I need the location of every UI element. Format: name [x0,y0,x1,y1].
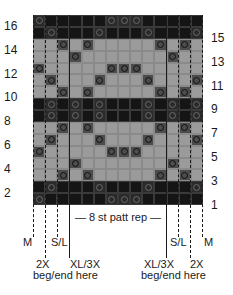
chart-cell-marked [33,15,45,27]
chart-cell-marked [130,193,142,205]
chart-cell [106,98,118,110]
chart-cell [82,193,94,205]
chart-cell [167,122,179,134]
chart-cell [33,27,45,39]
chart-cell-marked [118,146,130,158]
chart-cell [33,74,45,86]
chart-cell [154,146,166,158]
chart-cell [154,110,166,122]
size-line-right-m [202,15,203,237]
chart-cell [82,51,94,63]
chart-cell [118,51,130,63]
chart-cell [57,134,69,146]
chart-cell-marked [142,181,154,193]
chart-cell-marked [142,110,154,122]
chart-cell [142,169,154,181]
row-number-2: 2 [4,187,26,199]
chart-cell [69,193,81,205]
chart-cell [167,15,179,27]
chart-cell-marked [106,146,118,158]
chart-cell [57,110,69,122]
chart-cell [69,27,81,39]
chart-cell [118,181,130,193]
chart-cell [94,63,106,75]
chart-cell [57,146,69,158]
chart-cell [154,158,166,170]
chart-cell-marked [33,63,45,75]
chart-cell [82,146,94,158]
chart-cell-marked [167,110,179,122]
chart-cell-marked [167,51,179,63]
chart-cell-marked [45,98,57,110]
chart-cell [130,122,142,134]
chart-cell [69,169,81,181]
chart-cell [69,74,81,86]
chart-cell [57,74,69,86]
chart-cell [118,39,130,51]
chart-cell [130,169,142,181]
chart-cell [94,39,106,51]
chart-cell [106,27,118,39]
chart-cell [69,146,81,158]
chart-cell-marked [57,169,69,181]
chart-cell-marked [82,169,94,181]
chart-cell-marked [45,181,57,193]
chart-cell [106,110,118,122]
chart-cell [167,169,179,181]
chart-cell-marked [57,39,69,51]
chart-cell [142,146,154,158]
chart-cell [130,86,142,98]
row-number-11: 11 [211,80,231,92]
chart-cell [69,181,81,193]
chart-cell-marked [154,169,166,181]
size-label-left-m: M [23,236,32,248]
chart-cell [69,86,81,98]
chart-cell [45,122,57,134]
chart-cell [69,122,81,134]
chart-cell [33,86,45,98]
chart-cell [106,74,118,86]
chart-cell [94,86,106,98]
chart-cell [45,193,57,205]
chart-cell [82,27,94,39]
size-line-right-2x [190,15,191,258]
chart-cell [167,86,179,98]
chart-cell-marked [57,122,69,134]
chart-cell [82,158,94,170]
chart-cell [130,134,142,146]
chart-cell [45,63,57,75]
chart-cell [118,134,130,146]
chart-cell-marked [45,74,57,86]
size-label-left-sl: S/L [51,236,68,248]
chart-cell-marked [154,39,166,51]
chart-cell [154,181,166,193]
chart-cell [118,86,130,98]
chart-cell [142,86,154,98]
chart-cell-marked [118,193,130,205]
chart-cell [142,39,154,51]
size-line-left-sl [57,15,58,237]
chart-cell [57,51,69,63]
row-number-5: 5 [211,151,231,163]
chart-cell [154,98,166,110]
chart-cell [154,134,166,146]
chart-cell-marked [69,98,81,110]
chart-cell [106,51,118,63]
chart-cell [45,169,57,181]
size-line-left-2x [45,15,46,258]
chart-cell-marked [94,27,106,39]
chart-cell [33,158,45,170]
chart-cell [142,193,154,205]
chart-cell-marked [118,63,130,75]
beg-end-label-right: beg/end here [141,269,206,281]
chart-cell [167,74,179,86]
size-label-right-m: M [204,236,213,248]
chart-cell [57,193,69,205]
chart-cell [69,63,81,75]
chart-cell [33,134,45,146]
chart-cell [142,51,154,63]
chart-cell [130,181,142,193]
chart-cell [57,27,69,39]
chart-cell-marked [142,74,154,86]
chart-cell [33,169,45,181]
